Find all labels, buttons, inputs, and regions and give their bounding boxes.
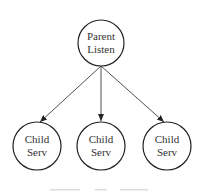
node-label-line2: Listen — [87, 43, 115, 55]
node-label-line2: Serv — [91, 146, 112, 158]
node-label-line2: Serv — [27, 146, 48, 158]
node-child3: Child Serv — [143, 122, 191, 170]
edge-parent-to-child3 — [101, 66, 164, 122]
cropped-caption-fragment — [50, 189, 148, 191]
node-label-line2: Serv — [157, 146, 178, 158]
node-child2: Child Serv — [77, 122, 125, 170]
node-label-line1: Parent — [87, 30, 115, 42]
tree-diagram: Parent Listen Child Serv Child Serv Chil… — [0, 0, 201, 193]
node-parent: Parent Listen — [78, 20, 124, 66]
node-label-line1: Child — [25, 133, 50, 145]
node-child1: Child Serv — [13, 122, 61, 170]
node-label-line1: Child — [155, 133, 180, 145]
node-label-line1: Child — [89, 133, 114, 145]
edge-parent-to-child1 — [40, 66, 101, 122]
diagram-canvas: Parent Listen Child Serv Child Serv Chil… — [0, 0, 201, 193]
